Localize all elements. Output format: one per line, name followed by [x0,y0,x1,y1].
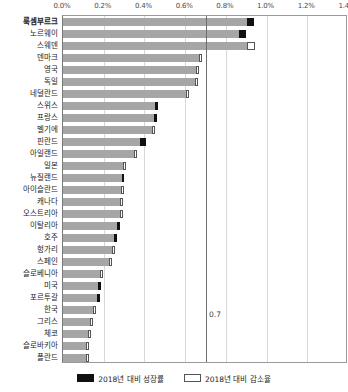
bar-decline-segment [109,258,112,266]
bar-row[interactable] [63,172,346,184]
bar-base-segment [63,102,155,110]
bar-row[interactable] [63,184,346,196]
bar-base-segment [63,126,152,134]
bar-growth-segment [97,294,100,302]
bar-decline-segment [196,66,199,74]
bar-decline-segment [112,246,115,254]
bar-base-segment [63,162,123,170]
bar-row[interactable] [63,64,346,76]
bar-row[interactable] [63,16,346,28]
bar-row[interactable] [63,40,346,52]
y-tick-label: 캐나다 [37,197,58,206]
bar-group [63,306,96,314]
bar-row[interactable] [63,244,346,256]
x-tick-label: 1.0% [257,2,274,10]
bar-row[interactable] [63,232,346,244]
bar-row[interactable] [63,352,346,363]
bar-base-segment [63,354,86,362]
bar-row[interactable] [63,328,346,340]
bar-group [63,162,126,170]
bar-base-segment [63,150,134,158]
bar-row[interactable] [63,52,346,64]
bar-row[interactable] [63,124,346,136]
bar-decline-segment [120,198,123,206]
bar-row[interactable] [63,148,346,160]
bar-row[interactable] [63,292,346,304]
bar-row[interactable] [63,316,346,328]
y-tick-label: 뉴질랜드 [30,173,58,182]
y-tick-label: 룩셈부르크 [23,17,58,26]
legend-swatch-decline-icon [184,374,201,382]
bar-row[interactable] [63,28,346,40]
bar-group [63,318,93,326]
y-tick-label: 슬로바키아 [23,341,58,350]
bar-decline-segment [134,150,137,158]
x-tick-label: 0.8% [216,2,233,10]
bar-row[interactable] [63,304,346,316]
y-tick-label: 한국 [44,305,58,314]
bar-base-segment [63,258,109,266]
bar-group [63,222,120,230]
bar-row[interactable] [63,100,346,112]
bar-row[interactable] [63,220,346,232]
legend-label: 2018년 대비 감소율 [205,373,271,384]
bar-growth-segment [140,138,146,146]
bar-group [63,102,158,110]
y-tick-label: 핀란드 [37,137,58,146]
bar-base-segment [63,66,196,74]
x-tick-label: 0.0% [54,2,71,10]
bar-decline-segment [86,354,89,362]
bar-row[interactable] [63,268,346,280]
bar-decline-segment [100,270,103,278]
bar-row[interactable] [63,76,346,88]
bar-base-segment [63,90,186,98]
bar-growth-segment [247,18,254,26]
bar-base-segment [63,246,112,254]
x-tick-label: 0.2% [94,2,111,10]
bar-row[interactable] [63,208,346,220]
bar-base-segment [63,222,117,230]
legend-item[interactable]: 2018년 대비 감소율 [184,373,271,384]
bar-row[interactable] [63,88,346,100]
x-tick-label: 1.2% [298,2,315,10]
bar-group [63,354,89,362]
y-tick-label: 프랑스 [37,113,58,122]
bar-row[interactable] [63,340,346,352]
bar-decline-segment [88,330,91,338]
bar-decline-segment [123,162,126,170]
y-tick-label: 영국 [44,65,58,74]
bar-group [63,198,123,206]
bar-base-segment [63,186,121,194]
bar-row[interactable] [63,160,346,172]
bar-growth-segment [117,222,120,230]
bar-row[interactable] [63,280,346,292]
bar-group [63,234,117,242]
reference-line [206,16,207,362]
bar-row[interactable] [63,256,346,268]
bar-group [63,42,255,50]
legend-label: 2018년 대비 성장률 [98,373,164,384]
bar-group [63,270,103,278]
bar-growth-segment [98,282,101,290]
y-tick-label: 네덜란드 [30,89,58,98]
y-tick-label: 헝가리 [37,245,58,254]
bar-decline-segment [199,54,202,62]
bar-group [63,246,115,254]
y-tick-label: 오스트리아 [23,209,58,218]
bar-decline-segment [86,342,89,350]
bar-group [63,294,100,302]
bar-row[interactable] [63,196,346,208]
bar-row[interactable] [63,112,346,124]
y-tick-label: 슬로베니아 [23,269,58,278]
y-tick-label: 폴란드 [37,353,58,362]
y-tick-label: 독일 [44,77,58,86]
bar-decline-segment [247,42,255,50]
bar-group [63,126,155,134]
bar-row[interactable] [63,136,346,148]
bar-base-segment [63,18,247,26]
bar-group [63,114,157,122]
plot-area: 0.7 [62,15,347,363]
legend-item[interactable]: 2018년 대비 성장률 [77,373,164,384]
bar-decline-segment [195,78,198,86]
bar-growth-segment [114,234,117,242]
